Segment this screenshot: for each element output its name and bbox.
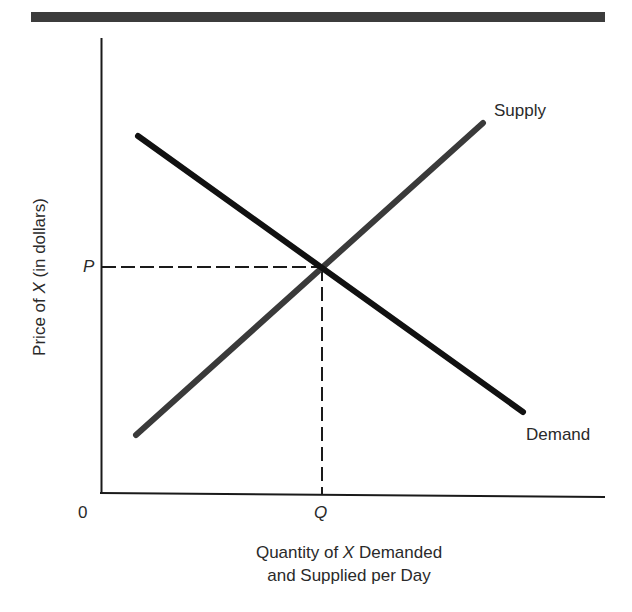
origin-label: 0 — [78, 504, 87, 521]
supply-label: Supply — [494, 102, 546, 119]
x-axis-title-line2: and Supplied per Day — [256, 564, 442, 587]
y-axis-title: Price of X (in dollars) — [30, 198, 50, 356]
demand-label: Demand — [526, 426, 590, 443]
demand-curve — [138, 136, 523, 412]
x-axis — [100, 493, 605, 497]
x-axis-title: Quantity of X Demanded and Supplied per … — [256, 541, 442, 587]
x-axis-title-line1: Quantity of X Demanded — [256, 541, 442, 564]
q-tick-label: Q — [314, 504, 327, 521]
p-tick-label: P — [83, 258, 94, 275]
